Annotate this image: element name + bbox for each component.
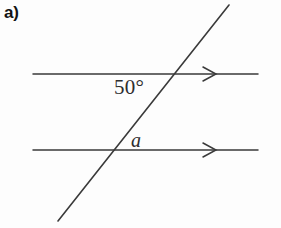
geometry-diagram bbox=[0, 0, 281, 228]
transversal-line bbox=[58, 5, 229, 221]
geometry-figure: a) 50° a bbox=[0, 0, 281, 228]
angle-label-50-degrees: 50° bbox=[114, 76, 144, 99]
angle-label-a: a bbox=[131, 129, 141, 151]
